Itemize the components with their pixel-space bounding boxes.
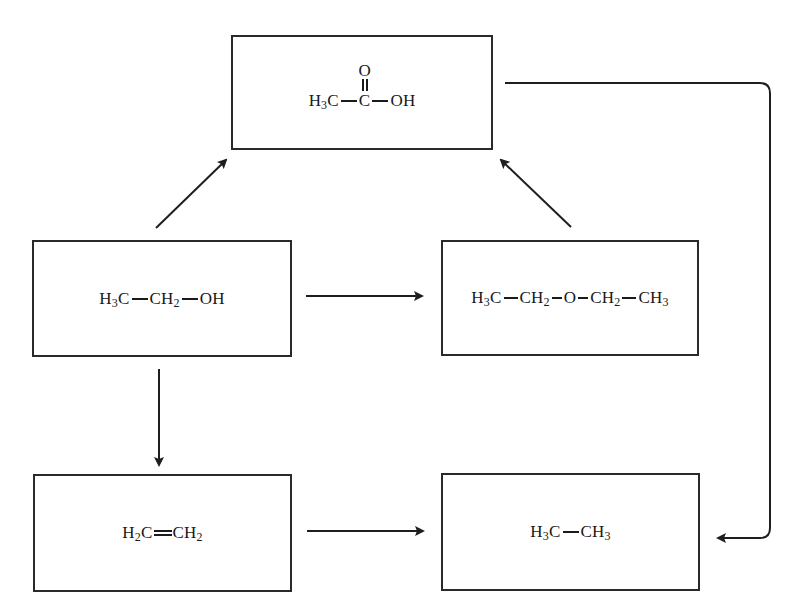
arrow-ethanol-to-acetic-acid — [156, 160, 226, 228]
arrow-acetic-acid-to-ethane — [505, 83, 770, 538]
arrow-ether-to-acetic-acid — [501, 160, 571, 227]
reaction-diagram: H3COCOH H3CCH2OH H3CCH2OCH2CH3 H2CCH2 H3… — [0, 0, 797, 616]
arrows-layer — [0, 0, 797, 616]
